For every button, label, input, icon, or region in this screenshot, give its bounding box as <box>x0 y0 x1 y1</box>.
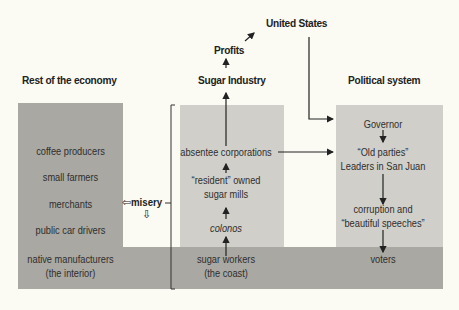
header-rest-of-economy: Rest of the economy <box>22 74 117 86</box>
header-political-system: Political system <box>348 74 420 86</box>
item-leaders-san-juan: Leaders in San Juan <box>339 159 427 173</box>
misery-label: misery <box>131 196 162 208</box>
item-the-coast: (the coast) <box>177 266 276 280</box>
item-sugar-mills: sugar mills <box>177 187 276 201</box>
item-coffee-producers: coffee producers <box>24 144 116 158</box>
item-beautiful-speeches: “beautiful speeches” <box>339 216 427 230</box>
item-governor: Governor <box>339 117 427 131</box>
left-hollow-arrow-icon: ⇦ <box>122 196 131 208</box>
item-the-interior: (the interior) <box>24 266 116 280</box>
item-native-manufacturers: native manufacturers <box>24 252 116 266</box>
item-colonos: colonos <box>177 221 276 235</box>
item-merchants: merchants <box>24 197 116 211</box>
item-old-parties: “Old parties” <box>339 145 427 159</box>
item-public-car-drivers: public car drivers <box>24 223 116 237</box>
item-voters: voters <box>339 252 427 266</box>
item-absentee-corporations: absentee corporations <box>177 145 276 159</box>
item-resident-owned: “resident” owned <box>177 173 276 187</box>
item-small-farmers: small farmers <box>24 170 116 184</box>
header-united-states: United States <box>266 17 327 29</box>
header-profits: Profits <box>214 44 244 56</box>
header-sugar-industry: Sugar Industry <box>198 74 266 86</box>
down-hollow-arrow-icon: ⇩ <box>142 208 151 221</box>
item-sugar-workers: sugar workers <box>177 252 276 266</box>
item-corruption: corruption and <box>339 202 427 216</box>
